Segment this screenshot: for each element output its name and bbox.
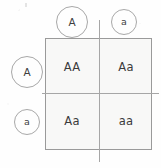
- left-allele-label-1: A: [23, 67, 30, 78]
- genotype-text: AA: [64, 60, 81, 74]
- punnett-cell-top-right: Aa: [99, 60, 153, 74]
- genotype-text: Aa: [118, 60, 134, 74]
- left-allele-circle-1: A: [11, 56, 43, 88]
- horizontal-divider-line: [42, 93, 159, 94]
- punnett-square-diagram: A a A a AA Aa Aa aa: [0, 0, 161, 168]
- scan-artifact-mark: [25, 3, 27, 7]
- punnett-cell-bottom-right: aa: [99, 114, 153, 128]
- top-allele-label-2: a: [121, 17, 127, 27]
- vertical-divider-line: [99, 20, 100, 162]
- punnett-cell-bottom-left: Aa: [45, 114, 99, 128]
- left-allele-circle-2: a: [14, 109, 40, 135]
- genotype-text: Aa: [64, 114, 80, 128]
- top-allele-circle-1: A: [56, 6, 88, 38]
- left-allele-label-2: a: [24, 117, 30, 127]
- genotype-text: aa: [119, 114, 134, 128]
- top-allele-circle-2: a: [111, 9, 137, 35]
- punnett-cell-top-left: AA: [45, 60, 99, 74]
- top-allele-label-1: A: [68, 17, 75, 28]
